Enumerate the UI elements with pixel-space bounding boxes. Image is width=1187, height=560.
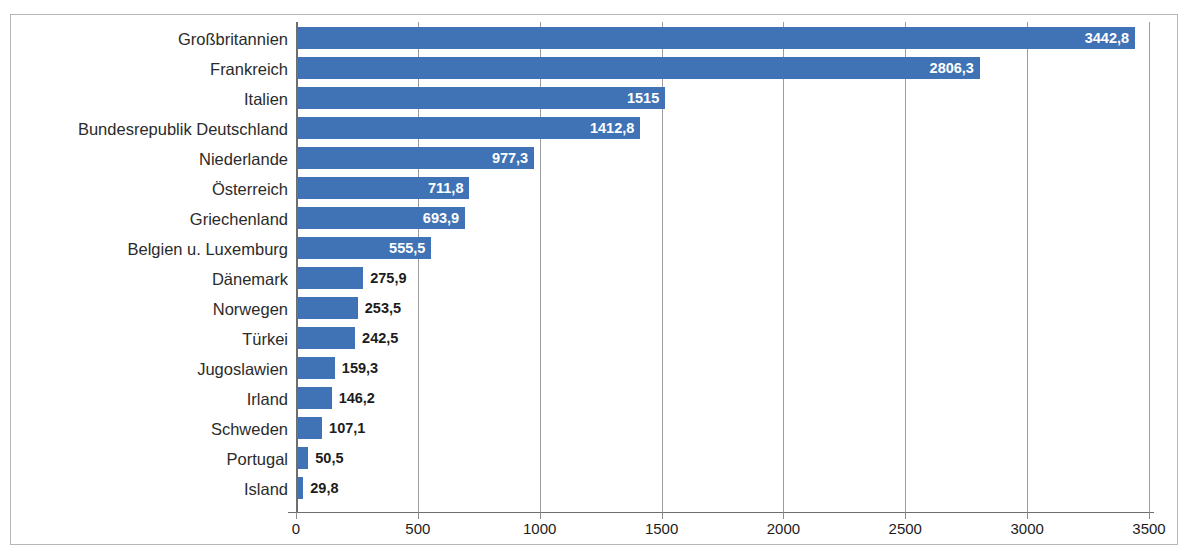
tick-mark-2000	[783, 512, 784, 519]
bar-value-label: 1412,8	[590, 117, 634, 139]
bar[interactable]	[296, 357, 335, 379]
bar-value-label: 977,3	[492, 147, 528, 169]
category-label: Belgien u. Luxemburg	[16, 238, 288, 260]
tick-mark-0	[296, 512, 297, 519]
bar-value-label: 146,2	[339, 387, 375, 409]
category-label: Island	[16, 478, 288, 500]
bar-group[interactable]: 253,5	[296, 297, 358, 319]
plot-area: 3442,82806,315151412,8977,3711,8693,9555…	[296, 22, 1149, 512]
category-label: Irland	[16, 388, 288, 410]
gridline-3500	[1149, 22, 1150, 512]
category-label: Türkei	[16, 328, 288, 350]
tick-label-0: 0	[292, 520, 300, 537]
category-label: Bundesrepublik Deutschland	[16, 118, 288, 140]
bar-value-label: 1515	[627, 87, 659, 109]
bar[interactable]	[296, 387, 332, 409]
category-label: Niederlande	[16, 148, 288, 170]
bar-group[interactable]: 159,3	[296, 357, 335, 379]
bar-group[interactable]: 146,2	[296, 387, 332, 409]
tick-label-2500: 2500	[889, 520, 922, 537]
bar-value-label: 29,8	[310, 477, 338, 499]
tick-label-2000: 2000	[767, 520, 800, 537]
bar-group[interactable]: 555,5	[296, 237, 431, 259]
bar-group[interactable]: 107,1	[296, 417, 322, 439]
bar-value-label: 555,5	[389, 237, 425, 259]
category-label: Jugoslawien	[16, 358, 288, 380]
category-label: Portugal	[16, 448, 288, 470]
bar[interactable]	[296, 117, 640, 139]
tick-label-3500: 3500	[1132, 520, 1165, 537]
bar-value-label: 711,8	[428, 177, 464, 199]
category-label: Österreich	[16, 178, 288, 200]
bar-value-label: 3442,8	[1085, 27, 1129, 49]
y-axis-line	[296, 22, 298, 512]
bar-group[interactable]: 2806,3	[296, 57, 980, 79]
tick-mark-1000	[540, 512, 541, 519]
category-label: Schweden	[16, 418, 288, 440]
tick-label-1500: 1500	[645, 520, 678, 537]
bar[interactable]	[296, 417, 322, 439]
category-label: Dänemark	[16, 268, 288, 290]
bar-value-label: 242,5	[362, 327, 398, 349]
tick-mark-2500	[905, 512, 906, 519]
bar-group[interactable]: 275,9	[296, 267, 363, 289]
category-label: Griechenland	[16, 208, 288, 230]
bar-value-label: 693,9	[423, 207, 459, 229]
gridline-3000	[1027, 22, 1028, 512]
gridline-2500	[905, 22, 906, 512]
tick-label-3000: 3000	[1010, 520, 1043, 537]
bar-group[interactable]: 3442,8	[296, 27, 1135, 49]
bar-group[interactable]: 711,8	[296, 177, 469, 199]
bar-group[interactable]: 1412,8	[296, 117, 640, 139]
bar-value-label: 275,9	[370, 267, 406, 289]
tick-mark-3000	[1027, 512, 1028, 519]
tick-label-1000: 1000	[523, 520, 556, 537]
bar[interactable]	[296, 87, 665, 109]
tick-mark-1500	[662, 512, 663, 519]
bar-value-label: 50,5	[315, 447, 343, 469]
bar-value-label: 253,5	[365, 297, 401, 319]
category-label: Großbritannien	[16, 28, 288, 50]
bar-group[interactable]: 693,9	[296, 207, 465, 229]
category-label: Norwegen	[16, 298, 288, 320]
category-label: Italien	[16, 88, 288, 110]
bar[interactable]	[296, 327, 355, 349]
gridline-2000	[783, 22, 784, 512]
bar[interactable]	[296, 267, 363, 289]
bar-group[interactable]: 977,3	[296, 147, 534, 169]
chart-page: 3442,82806,315151412,8977,3711,8693,9555…	[0, 0, 1187, 560]
bar[interactable]	[296, 57, 980, 79]
tick-mark-500	[418, 512, 419, 519]
bar-value-label: 159,3	[342, 357, 378, 379]
tick-mark-3500	[1149, 512, 1150, 519]
bar-group[interactable]: 1515	[296, 87, 665, 109]
bar-value-label: 107,1	[329, 417, 365, 439]
bar-value-label: 2806,3	[930, 57, 974, 79]
bar[interactable]	[296, 297, 358, 319]
tick-label-500: 500	[405, 520, 430, 537]
category-label: Frankreich	[16, 58, 288, 80]
bar[interactable]	[296, 27, 1135, 49]
bar-group[interactable]: 242,5	[296, 327, 355, 349]
